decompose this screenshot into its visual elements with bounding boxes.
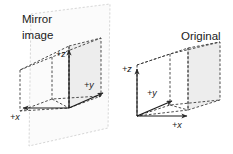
original-axis-label-z: +z [122,64,132,74]
original-title: Original [181,30,221,42]
mirror-title-line-2: image [22,29,53,41]
mirror-axis-label-z: +z [56,49,66,59]
mirror-original-coordinate-diagram: Mirror image +z +y +x [0,0,233,154]
original-axes [137,69,187,116]
mirror-title-line-1: Mirror [22,13,52,25]
original-box [137,42,220,116]
original-axis-label-y: +y [147,88,157,98]
figure-root: Mirror image +z +y +x [0,0,233,154]
mirror-axis-label-y: +y [84,80,94,90]
mirror-axis-label-x: +x [10,112,20,122]
original-axis-label-x: +x [172,120,182,130]
